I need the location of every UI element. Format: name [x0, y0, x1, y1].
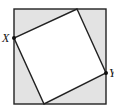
point-x	[12, 36, 16, 40]
square-diagram: X Y	[0, 0, 114, 109]
point-y	[104, 71, 108, 75]
label-y: Y	[109, 66, 114, 80]
label-x: X	[1, 31, 10, 45]
